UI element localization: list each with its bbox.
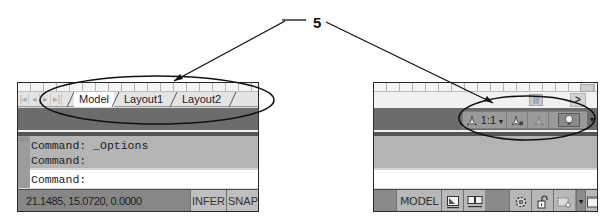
command-history-line: Command: _Options (31, 138, 258, 153)
previous-tab-button[interactable]: ◂ (30, 94, 40, 105)
scrollbar-thumb[interactable]: ||| (529, 94, 543, 106)
tab-divider (229, 92, 237, 107)
status-bar: 21.1485, 15.0720, 0.0000 INFER SNAP (18, 189, 258, 212)
auto-scale-button[interactable] (529, 112, 549, 128)
auto-scale-icon (533, 115, 545, 127)
last-icon: ▸| (53, 94, 60, 104)
scroll-right-button[interactable]: > (570, 93, 586, 107)
hardware-acceleration-button[interactable] (553, 190, 575, 212)
scale-value: 1:1 (481, 114, 496, 126)
tab-model[interactable]: Model (74, 92, 114, 107)
tab-layout1[interactable]: Layout1 (119, 92, 168, 107)
toolbar-overflow-button[interactable]: ▾ (587, 111, 597, 129)
scroll-corner (580, 84, 594, 92)
last-tab-button[interactable]: ▸| (52, 94, 62, 105)
coordinates-display: 21.1485, 15.0720, 0.0000 (26, 190, 142, 212)
chevron-down-icon: ▾ (499, 117, 503, 126)
infer-button[interactable]: INFER (190, 190, 226, 212)
model-space-button[interactable]: MODEL (396, 190, 441, 212)
toolbar-lock-button[interactable] (531, 190, 553, 212)
chevron-right-icon: > (575, 94, 581, 105)
ruler (374, 83, 597, 92)
callout-number: 5 (313, 14, 321, 31)
layout-tab-strip: |◂ ◂ ▸ ▸| Model Layout1 Layout2 (18, 92, 258, 107)
command-line-grip-column (18, 136, 30, 188)
horizontal-scroll-area: ||| > (374, 92, 597, 108)
next-icon: ▸ (43, 94, 48, 104)
annotation-toolbar: 1:1 ▾ (462, 111, 588, 129)
workspace-switching-button[interactable] (509, 190, 531, 212)
quick-view-drawings-button[interactable] (463, 190, 485, 212)
quick-view-layouts-button[interactable] (441, 190, 463, 212)
command-history: Command: _Options Command: (30, 136, 258, 168)
command-input[interactable]: Command: (30, 169, 258, 188)
annotation-visibility-icon (511, 115, 524, 127)
status-bar: MODEL (374, 189, 597, 212)
first-icon: |◂ (20, 94, 27, 104)
grip-handle-icon[interactable] (19, 138, 28, 141)
right-panel-annotation-tools: ||| > 1:1 ▾ (373, 82, 598, 212)
workspace-gear-icon (514, 195, 528, 209)
quick-view-layouts-icon (467, 195, 483, 209)
command-input-area[interactable] (374, 169, 597, 188)
dropdown-arrow-icon: ▾ (579, 197, 583, 206)
isolate-objects-button[interactable] (550, 112, 588, 128)
snap-button[interactable]: SNAP (226, 190, 259, 212)
annotation-visibility-button[interactable] (508, 112, 528, 128)
arrowhead-icon (174, 74, 183, 81)
left-panel-model-layout-tabs: |◂ ◂ ▸ ▸| Model Layout1 Layout2 Command:… (17, 82, 259, 212)
command-history-line: Command: (31, 153, 258, 168)
status-bar-menu-button[interactable]: ▾ (576, 190, 585, 212)
annotation-scale-button[interactable]: 1:1 ▾ (463, 112, 507, 128)
lock-icon (536, 195, 550, 209)
first-tab-button[interactable]: |◂ (19, 94, 29, 105)
command-history-area (374, 136, 597, 168)
callout-leader-line (174, 21, 285, 81)
clean-screen-button[interactable] (585, 190, 598, 212)
ruler (18, 83, 258, 92)
hardware-acceleration-icon (557, 195, 572, 209)
layout-grid-icon (446, 195, 460, 209)
tab-layout2[interactable]: Layout2 (177, 92, 226, 107)
clean-screen-icon (587, 195, 599, 209)
lightbulb-icon (559, 114, 579, 126)
annotation-scale-icon (466, 115, 478, 127)
drawing-area-band (18, 108, 258, 130)
next-tab-button[interactable]: ▸ (41, 94, 51, 105)
prev-icon: ◂ (32, 94, 37, 104)
